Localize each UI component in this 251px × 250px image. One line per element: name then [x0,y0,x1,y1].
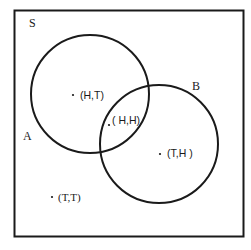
element-dot [159,153,161,155]
element-dot [51,196,53,198]
set-b-circle [100,85,218,203]
element-dot [72,94,74,96]
universe-label: S [29,16,36,30]
element-label-hh: ( H,H) [112,114,140,126]
element-label-ht: (H,T) [80,89,104,101]
set-b-label: B [192,79,200,93]
element-label-th: (T,H ) [167,147,193,159]
element-dot [108,124,110,126]
venn-diagram: S A B (H,T) ( H,H) (T,H ) (T,T) [0,0,251,250]
element-label-tt: (T,T) [58,191,81,204]
set-a-label: A [23,129,32,143]
